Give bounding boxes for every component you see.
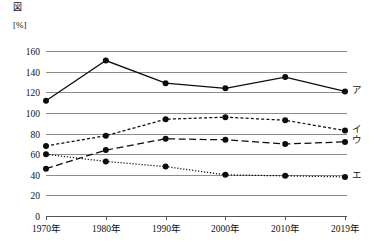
data-point (342, 88, 348, 94)
y-axis-tick-label: 160 (26, 47, 41, 57)
series-label-エ: エ (352, 170, 362, 180)
y-axis-tick-label: 120 (26, 88, 41, 98)
data-point (222, 172, 228, 178)
x-axis-tick-label: 1990年 (152, 223, 181, 234)
series-line-ア (46, 61, 345, 101)
y-axis-tick-label: 40 (31, 171, 41, 181)
y-axis-tick-label: 20 (31, 191, 41, 201)
x-axis-tick-label: 2019年 (331, 223, 360, 234)
data-point (43, 143, 49, 149)
data-point (282, 117, 288, 123)
data-point (282, 74, 288, 80)
data-point (342, 128, 348, 134)
y-axis-tick-label: 0 (35, 212, 40, 222)
series-label-イ: イ (352, 124, 362, 134)
data-point (163, 116, 169, 122)
data-point (282, 173, 288, 179)
data-point (163, 80, 169, 86)
series-line-エ (46, 154, 345, 177)
data-point (163, 136, 169, 142)
figure-container: 図 [%] 0204060801001201401601970年1980年199… (0, 0, 379, 248)
y-axis-tick-label: 100 (26, 109, 41, 119)
data-point (342, 139, 348, 145)
data-point (103, 58, 109, 64)
data-point (222, 85, 228, 91)
data-point (43, 98, 49, 104)
data-point (163, 164, 169, 170)
data-point (103, 158, 109, 164)
x-axis-tick-label: 1980年 (92, 223, 121, 234)
data-point (222, 114, 228, 120)
data-point (43, 166, 49, 172)
y-axis-tick-label: 60 (31, 150, 41, 160)
data-point (282, 141, 288, 147)
y-axis-tick-label: 140 (26, 68, 41, 78)
x-axis-tick-label: 2010年 (271, 223, 300, 234)
series-line-ウ (46, 139, 345, 169)
x-axis-tick-label: 2000年 (211, 223, 240, 234)
data-point (43, 151, 49, 157)
series-line-イ (46, 117, 345, 146)
series-label-ウ: ウ (352, 135, 362, 145)
x-axis-tick-label: 1970年 (32, 223, 61, 234)
y-axis-tick-label: 80 (31, 130, 41, 140)
data-point (222, 137, 228, 143)
data-point (342, 174, 348, 180)
line-chart-plot: 0204060801001201401601970年1980年1990年2000… (0, 0, 379, 248)
series-label-ア: ア (352, 85, 362, 95)
data-point (103, 133, 109, 139)
data-point (103, 147, 109, 153)
